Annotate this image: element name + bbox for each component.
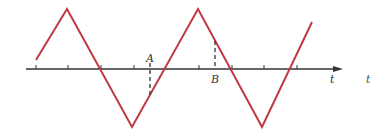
marker-a-label: A [145,52,154,65]
axis-arrow-icon [333,66,343,72]
axis-label-t-secondary: t [366,73,371,86]
triangle-wave-diagram: t t A B [0,0,385,140]
triangle-waveform [36,9,312,127]
axis-label-t: t [330,73,335,86]
time-axis: t t [26,65,371,86]
marker-b: B [210,41,219,86]
marker-b-label: B [210,73,219,86]
